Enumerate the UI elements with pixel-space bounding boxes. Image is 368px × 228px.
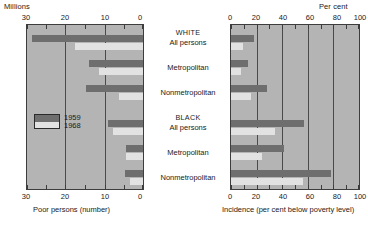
right-bottick-50: [295, 185, 296, 189]
category-label-white-metropolitan: Metropolitan: [146, 63, 230, 72]
left-toptick-25: [46, 25, 47, 29]
right-bottick-40: [282, 185, 283, 189]
left-xtick-20: 20: [56, 13, 74, 22]
bar-right-white-nonmetropolitan-1968: [231, 93, 251, 100]
bar-right-black-metropolitan-1959: [231, 145, 284, 152]
bar-left-black-nonmetropolitan-1959: [125, 170, 143, 177]
left-bottick-20: [65, 185, 66, 189]
bar-right-black-nonmetropolitan-1968: [231, 178, 303, 185]
right-bottick-20: [257, 185, 258, 189]
left-bottom-xtick-10: 10: [96, 192, 114, 201]
right-bottom-xtick-80: 80: [328, 192, 346, 201]
right-gridline-20: [257, 25, 258, 189]
category-label-white-all-persons: All persons: [146, 38, 230, 47]
right-gridline-80: [333, 25, 334, 189]
left-bottom-xtick-20: 20: [56, 192, 74, 201]
right-toptick-80: [333, 25, 334, 29]
left-xtick-30: 30: [17, 13, 35, 22]
right-bottick-10: [244, 185, 245, 189]
right-toptick-90: [346, 25, 347, 29]
right-xtick-0: 0: [223, 13, 237, 22]
right-toptick-40: [282, 25, 283, 29]
bar-left-white-nonmetropolitan-1968: [119, 93, 143, 100]
bar-right-black-allpersons-1968: [231, 128, 275, 135]
left-toptick-10: [105, 25, 106, 29]
right-bottom-xtick-60: 60: [301, 192, 319, 201]
right-toptick-70: [321, 25, 322, 29]
left-bottick-25: [46, 185, 47, 189]
right-toptick-100: [358, 25, 359, 29]
right-bottom-xtick-100: 100: [352, 192, 368, 201]
left-plot-panel: 1959 1968: [26, 24, 144, 190]
bar-right-black-nonmetropolitan-1959: [231, 170, 331, 177]
right-toptick-50: [295, 25, 296, 29]
left-toptick-15: [85, 25, 86, 29]
left-topticc-30: [27, 25, 28, 29]
bar-left-black-metropolitan-1959: [126, 145, 143, 152]
bar-left-white-allpersons-1968: [75, 43, 143, 50]
left-bottick-15: [85, 185, 86, 189]
group-header-white: WHITE: [146, 28, 230, 37]
right-toptick-30: [269, 25, 270, 29]
bar-left-white-metropolitan-1959: [89, 60, 143, 67]
legend-label-1968: 1968: [64, 121, 81, 130]
left-toptick-20: [65, 25, 66, 29]
left-xtick-10: 10: [96, 13, 114, 22]
right-bottick-70: [321, 185, 322, 189]
right-bottom-xtick-40: 40: [274, 192, 292, 201]
right-plot-panel: [230, 24, 360, 190]
bar-right-black-metropolitan-1968: [231, 153, 262, 160]
right-toptick-20: [257, 25, 258, 29]
category-label-black-metropolitan: Metropolitan: [146, 148, 230, 157]
left-unit-label: Millions: [4, 2, 30, 11]
left-bottick-10: [105, 185, 106, 189]
right-xtick-20: 20: [247, 13, 265, 22]
bar-left-black-nonmetropolitan-1968: [130, 178, 143, 185]
right-bottick-30: [269, 185, 270, 189]
left-bottick-30: [27, 185, 28, 189]
right-axis-title: Incidence (per cent below poverty level): [222, 205, 354, 214]
legend-box: [34, 114, 60, 129]
right-toptick-10: [244, 25, 245, 29]
bar-left-black-metropolitan-1968: [126, 153, 143, 160]
group-header-black: BLACK: [146, 113, 230, 122]
bar-left-white-metropolitan-1968: [99, 68, 143, 75]
category-label-white-nonmetropolitan: Nonmetropolitan: [146, 88, 230, 97]
bar-right-white-metropolitan-1959: [231, 60, 248, 67]
right-gridline-60: [308, 25, 309, 189]
left-bottom-xtick-0: 0: [133, 192, 147, 201]
bar-left-white-allpersons-1959: [32, 35, 143, 42]
left-gridline-20: [65, 25, 66, 189]
right-bottick-60: [308, 185, 309, 189]
right-bottick-80: [333, 185, 334, 189]
right-bottom-xtick-0: 0: [223, 192, 237, 201]
left-bottick-5: [124, 185, 125, 189]
right-xtick-60: 60: [301, 13, 319, 22]
bar-right-white-nonmetropolitan-1959: [231, 85, 267, 92]
bar-right-white-metropolitan-1968: [231, 68, 241, 75]
right-bottick-100: [358, 185, 359, 189]
left-toptick-5: [124, 25, 125, 29]
right-bottick-0: [231, 185, 232, 189]
category-label-black-nonmetropolitan: Nonmetropolitan: [146, 173, 230, 182]
bar-left-black-allpersons-1968: [113, 128, 143, 135]
right-toptick-60: [308, 25, 309, 29]
chart-figure: Millions 30 20 10 0: [0, 0, 368, 228]
left-toptick-0: [142, 25, 143, 29]
right-xtick-80: 80: [328, 13, 346, 22]
right-gridline-40: [282, 25, 283, 189]
bar-right-white-allpersons-1959: [231, 35, 254, 42]
right-bottick-90: [346, 185, 347, 189]
left-axis-title: Poor persons (number): [33, 205, 110, 214]
right-bottom-xtick-20: 20: [247, 192, 265, 201]
bar-right-black-allpersons-1959: [231, 120, 304, 127]
right-unit-label: Per cent: [319, 2, 348, 11]
bar-right-white-allpersons-1968: [231, 43, 243, 50]
left-bottom-xtick-30: 30: [17, 192, 35, 201]
right-xtick-40: 40: [274, 13, 292, 22]
left-xtick-0: 0: [133, 13, 147, 22]
bar-left-black-allpersons-1959: [108, 120, 143, 127]
right-xtick-100: 100: [352, 13, 368, 22]
left-bottick-0: [142, 185, 143, 189]
bar-left-white-nonmetropolitan-1959: [86, 85, 143, 92]
